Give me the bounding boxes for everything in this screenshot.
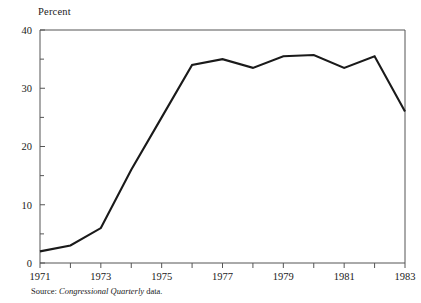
y-axis-major-tick-group <box>40 30 45 263</box>
data-line <box>40 55 405 251</box>
source-label: Source: <box>31 286 57 296</box>
x-axis-tick-label: 1973 <box>90 271 111 282</box>
y-axis-tick-label: 40 <box>22 25 33 36</box>
chart-plot-area: 010203040 1971197319751977197919811983 <box>0 0 421 303</box>
x-axis-tick-group <box>40 263 405 268</box>
y-axis-tick-label: 0 <box>27 258 32 269</box>
chart-figure: Percent 010203040 1971197319751977197919… <box>0 0 421 303</box>
source-publication: Congressional Quarterly <box>59 286 144 296</box>
x-axis-tick-label: 1971 <box>30 271 51 282</box>
x-axis-tick-label-group: 1971197319751977197919811983 <box>30 271 416 282</box>
y-axis-tick-label-group: 010203040 <box>22 25 33 269</box>
x-axis-tick-label: 1977 <box>212 271 233 282</box>
x-axis-tick-label: 1979 <box>273 271 294 282</box>
x-axis-tick-label: 1981 <box>334 271 355 282</box>
y-axis-tick-label: 10 <box>22 200 33 211</box>
data-series-group <box>40 55 405 251</box>
x-axis-tick-label: 1983 <box>395 271 416 282</box>
y-axis-tick-label: 30 <box>22 83 33 94</box>
y-axis-tick-label: 20 <box>22 141 33 152</box>
source-tail: data. <box>146 286 162 296</box>
x-axis-tick-label: 1975 <box>151 271 172 282</box>
source-note: Source: Congressional Quarterly data. <box>31 286 162 296</box>
